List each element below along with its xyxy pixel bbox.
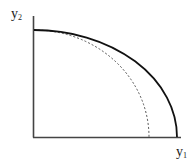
solid-frontier-curve	[34, 30, 177, 137]
chart-canvas	[0, 0, 196, 167]
y-axis-label: y2	[11, 7, 22, 22]
x-axis-label: y1	[176, 145, 187, 160]
dashed-frontier-curve	[34, 30, 149, 137]
